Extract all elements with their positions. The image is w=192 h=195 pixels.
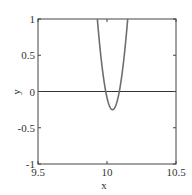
y-tick-label: -1 bbox=[26, 158, 35, 170]
y-tick-label: 0.5 bbox=[21, 49, 35, 61]
plot-area bbox=[38, 0, 176, 164]
parabola-curve bbox=[93, 0, 132, 110]
x-tick-label: 10 bbox=[102, 166, 114, 178]
y-axis-label: y bbox=[10, 89, 22, 95]
x-tick-label: 10.5 bbox=[166, 166, 186, 178]
ticks: 9.51010.5-1-0.500.51 bbox=[18, 13, 187, 178]
x-axis-label: x bbox=[101, 179, 107, 191]
y-tick-label: 0 bbox=[30, 86, 36, 98]
chart: 9.51010.5-1-0.500.51 x y bbox=[0, 0, 192, 195]
y-tick-label: -0.5 bbox=[18, 122, 36, 134]
y-tick-label: 1 bbox=[30, 13, 36, 25]
